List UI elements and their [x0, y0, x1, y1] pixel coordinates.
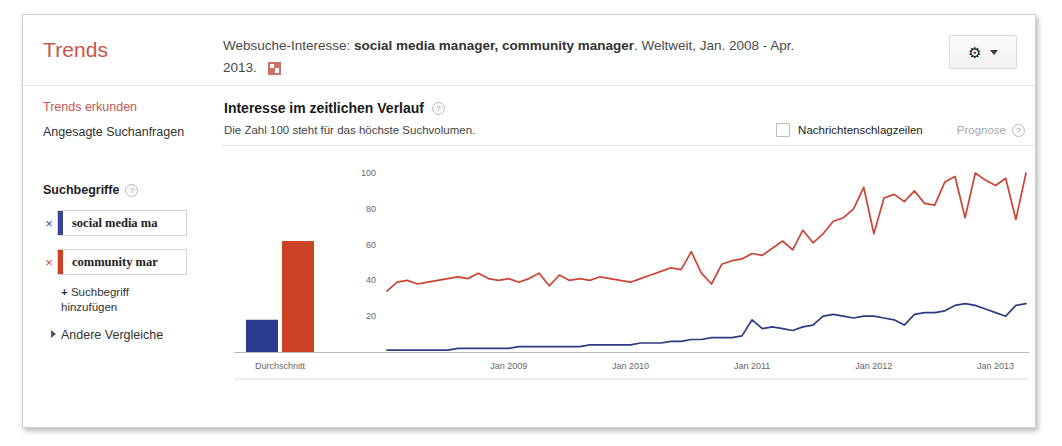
- y-axis-tick: 40: [366, 275, 376, 285]
- trends-logo[interactable]: Trends: [43, 38, 108, 62]
- settings-button[interactable]: ⚙: [949, 35, 1017, 69]
- other-comparisons-button[interactable]: Andere Vergleiche: [51, 328, 221, 342]
- embed-image-icon[interactable]: [268, 62, 281, 75]
- news-headlines-toggle[interactable]: Nachrichtenschlagzeilen: [776, 123, 923, 137]
- scale-note: Die Zahl 100 steht für das höchste Suchv…: [224, 124, 475, 136]
- gear-icon: ⚙: [968, 45, 981, 60]
- series-line[interactable]: [387, 173, 1026, 291]
- search-term-row-2: × community mar: [41, 249, 221, 275]
- search-term-text-1: social media ma: [63, 211, 186, 235]
- remove-term-icon[interactable]: ×: [41, 256, 57, 269]
- y-axis-tick: 100: [361, 168, 376, 178]
- x-axis-tick: Jan 2010: [612, 361, 649, 371]
- checkbox-icon[interactable]: [776, 123, 790, 137]
- x-axis-tick: Jan 2011: [734, 361, 770, 371]
- search-terms-label: Suchbegriffe: [43, 183, 119, 197]
- chart-canvas: Durchschnitt20406080100Jan 2009Jan 2010J…: [224, 152, 1034, 422]
- sidebar-item-trending[interactable]: Angesagte Suchanfragen: [23, 114, 221, 139]
- y-axis-tick: 60: [366, 240, 376, 250]
- y-axis-tick: 20: [366, 311, 376, 321]
- page-body: Trends erkunden Angesagte Suchanfragen S…: [23, 86, 1035, 428]
- trends-chart[interactable]: Durchschnitt20406080100Jan 2009Jan 2010J…: [224, 152, 1027, 428]
- section-title-label: Interesse im zeitlichen Verlauf: [224, 100, 424, 116]
- forecast-label: Prognose: [957, 124, 1006, 136]
- search-term-input-2[interactable]: community mar: [57, 249, 187, 275]
- search-terms-heading: Suchbegriffe ?: [23, 139, 221, 197]
- search-term-input-1[interactable]: social media ma: [57, 210, 187, 236]
- x-axis-tick: Jan 2012: [855, 361, 892, 371]
- plus-icon: +: [61, 286, 68, 298]
- sidebar-item-explore[interactable]: Trends erkunden: [23, 86, 221, 114]
- chevron-down-icon[interactable]: [990, 50, 998, 55]
- page-header: Trends Websuche-Interesse: social media …: [23, 15, 1035, 86]
- x-axis-tick: Jan 2009: [490, 361, 527, 371]
- average-bar[interactable]: [246, 320, 278, 352]
- sidebar: Trends erkunden Angesagte Suchanfragen S…: [23, 86, 221, 428]
- other-comparisons-label: Andere Vergleiche: [61, 328, 163, 342]
- chart-toolbar: Die Zahl 100 steht für das höchste Suchv…: [221, 116, 1035, 146]
- remove-term-icon[interactable]: ×: [41, 217, 57, 230]
- chart-toolbar-right: Nachrichtenschlagzeilen Prognose ?: [776, 123, 1025, 137]
- trends-window: Trends Websuche-Interesse: social media …: [22, 14, 1036, 428]
- help-icon[interactable]: ?: [125, 184, 138, 197]
- y-axis-tick: 80: [366, 204, 376, 214]
- description-terms: social media manager, community manager: [354, 38, 634, 53]
- help-icon[interactable]: ?: [1012, 124, 1025, 137]
- average-bar[interactable]: [282, 241, 314, 352]
- search-term-text-2: community mar: [63, 250, 186, 274]
- add-search-term-button[interactable]: + Suchbegriff hinzufügen: [61, 285, 171, 315]
- series-line[interactable]: [387, 304, 1026, 351]
- news-headlines-label: Nachrichtenschlagzeilen: [798, 124, 923, 136]
- x-axis-tick: Jan 2013: [977, 361, 1014, 371]
- help-icon[interactable]: ?: [432, 102, 445, 115]
- x-axis-label-average: Durchschnitt: [255, 361, 306, 371]
- add-search-term-label: Suchbegriff hinzufügen: [61, 286, 129, 313]
- main-panel: Interesse im zeitlichen Verlauf ? Die Za…: [221, 86, 1035, 428]
- description-prefix: Websuche-Interesse:: [223, 38, 354, 53]
- search-term-row-1: × social media ma: [41, 210, 221, 236]
- query-description: Websuche-Interesse: social media manager…: [223, 35, 823, 79]
- section-title: Interesse im zeitlichen Verlauf ?: [221, 86, 1035, 116]
- chevron-right-icon: [51, 330, 56, 338]
- forecast-control[interactable]: Prognose ?: [957, 124, 1025, 137]
